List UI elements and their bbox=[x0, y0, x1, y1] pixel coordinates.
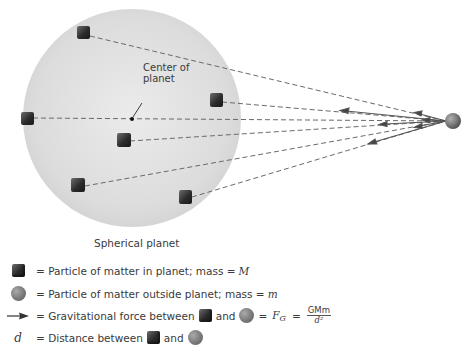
cube-particle bbox=[210, 93, 223, 107]
force-vectors bbox=[340, 108, 446, 144]
force-formula: GMm d² bbox=[307, 306, 331, 325]
cube-particle bbox=[117, 133, 131, 147]
cube-icon bbox=[12, 264, 25, 277]
ball-icon bbox=[188, 330, 203, 345]
arrow-icon bbox=[7, 312, 29, 320]
cube-particle bbox=[77, 26, 90, 39]
planet-caption: Spherical planet bbox=[94, 237, 179, 249]
distance-symbol: d bbox=[14, 331, 22, 345]
center-of-planet-label: Center of planet bbox=[143, 62, 189, 84]
force-symbol: FG bbox=[272, 309, 286, 323]
legend-item-outside-particle: = Particle of matter outside planet; mas… bbox=[0, 286, 278, 301]
cube-particle bbox=[179, 190, 192, 204]
ball-icon bbox=[11, 286, 26, 301]
cube-icon bbox=[147, 331, 160, 344]
outside-particle bbox=[445, 113, 461, 129]
planet-center-dot bbox=[130, 117, 134, 121]
legend-item-planet-particle: = Particle of matter in planet; mass = M bbox=[0, 264, 249, 277]
cube-icon bbox=[199, 309, 212, 322]
legend-item-gravitational-force: = Gravitational force between and = FG =… bbox=[0, 306, 331, 325]
cube-particle bbox=[21, 112, 34, 125]
ball-icon bbox=[239, 308, 254, 323]
cube-particle bbox=[71, 178, 85, 192]
legend-item-distance: d = Distance between and bbox=[0, 330, 207, 345]
